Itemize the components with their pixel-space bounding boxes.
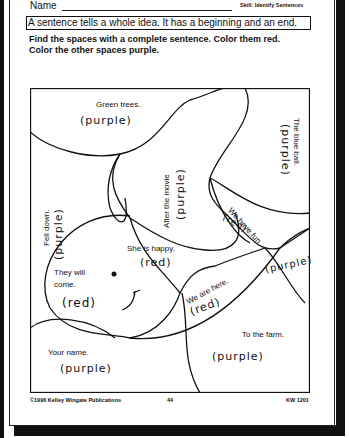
region-your-name-answer: (purple)	[60, 362, 112, 375]
region-they-will-come-text-2: come.	[54, 280, 76, 289]
region-after-movie-text: After the movie	[162, 174, 171, 228]
region-green-trees-text: Green trees.	[96, 100, 140, 109]
region-blue-ball-answer: (purple)	[279, 124, 292, 176]
page-number: 44	[167, 397, 173, 403]
name-field[interactable]	[62, 10, 232, 11]
instructions: Find the spaces with a complete sentence…	[29, 34, 319, 56]
region-she-is-happy-answer: (red)	[140, 256, 172, 269]
region-she-is-happy-text: She is happy.	[127, 244, 175, 253]
instruction-line-1: Find the spaces with a complete sentence…	[29, 34, 319, 45]
name-label: Name	[30, 0, 57, 11]
page-border-bottom	[14, 425, 345, 436]
region-your-name-text: Your name.	[48, 348, 89, 357]
coloring-map: Green trees. (purple) Fell down. (purple…	[30, 88, 310, 393]
skill-label: Skill: Identify Sentences	[240, 2, 303, 8]
copyright-text: ©1996 Kelley Wingate Publications	[30, 397, 121, 403]
page-border-right	[336, 0, 345, 436]
rule-box: A sentence tells a whole idea. It has a …	[26, 16, 311, 30]
region-fell-down-answer: (purple)	[52, 208, 65, 260]
region-fell-down-text: Fell down.	[42, 210, 51, 246]
left-edge-bar	[0, 0, 4, 438]
region-to-the-farm-text: To the farm.	[242, 330, 284, 339]
region-after-movie-answer: (purple)	[174, 168, 187, 220]
instruction-line-2: Color the other spaces purple.	[29, 45, 319, 56]
region-to-the-farm-answer: (purple)	[212, 350, 264, 363]
product-code: KW 1201	[286, 397, 309, 403]
region-they-will-come-answer: (red)	[62, 296, 96, 310]
region-they-will-come-text-1: They will	[54, 268, 85, 277]
region-green-trees-answer: (purple)	[80, 114, 132, 127]
region-blue-ball-text: The blue ball.	[292, 118, 301, 166]
